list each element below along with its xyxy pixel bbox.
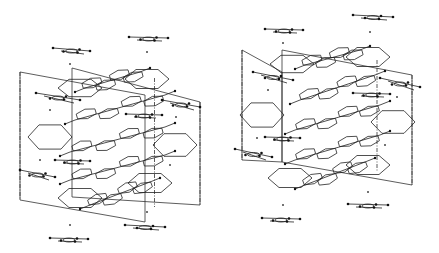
atom (174, 122, 176, 124)
right-stereo-view (234, 14, 422, 223)
substituent-bond (290, 100, 300, 104)
isolated-atom-dot (256, 137, 258, 139)
atom (74, 240, 77, 243)
atom (62, 50, 65, 53)
atom (378, 92, 381, 95)
atom (378, 18, 381, 21)
aromatic-ring (121, 96, 141, 106)
atom (364, 17, 367, 20)
atom (52, 47, 55, 50)
atom (49, 237, 52, 240)
atom (419, 86, 422, 89)
atom (42, 175, 45, 178)
atom (374, 157, 376, 159)
hexagonal-ring (371, 111, 415, 134)
atom (152, 225, 155, 228)
atom (35, 92, 38, 95)
atom (60, 239, 63, 242)
atom (63, 98, 66, 101)
substituent-bond (140, 68, 150, 72)
atom (78, 48, 81, 51)
aromatic-ring (356, 76, 376, 87)
atom (128, 36, 131, 39)
atom (155, 36, 158, 39)
atom (369, 45, 371, 47)
substituent-bond (65, 120, 75, 124)
edge-on-molecule-bond (53, 48, 90, 51)
atom (188, 102, 191, 105)
atom (149, 116, 152, 119)
substituent-bond (80, 205, 90, 209)
atom (89, 50, 92, 53)
hexagonal-ring (58, 79, 102, 96)
stereo-pair-figure (0, 0, 439, 253)
atom (352, 92, 355, 95)
atom (391, 83, 394, 86)
atom (299, 137, 302, 140)
atom (289, 103, 291, 105)
atom (373, 206, 376, 209)
molecule-backbone-bond (70, 155, 165, 180)
atom (261, 217, 264, 220)
atom (28, 174, 31, 177)
hexagonal-ring (240, 103, 284, 127)
isolated-atom-dot (146, 211, 148, 213)
atom (284, 133, 286, 135)
atom (375, 203, 378, 206)
atom (278, 78, 281, 81)
crystal-packing-diagram (0, 0, 439, 253)
atom (174, 90, 176, 92)
substituent-bond (380, 101, 390, 105)
atom (379, 77, 382, 80)
atom (139, 38, 142, 41)
atom (76, 237, 79, 240)
atom (273, 138, 276, 141)
atom (159, 177, 161, 179)
aromatic-ring (338, 106, 358, 116)
molecule-backbone-bond (295, 135, 380, 160)
atom (125, 113, 128, 116)
atom (153, 39, 156, 42)
hexagonal-ring (128, 174, 172, 193)
atom (244, 154, 247, 157)
atom (389, 130, 391, 132)
atom (289, 31, 292, 34)
substituent-bond (150, 178, 160, 182)
atom (252, 71, 255, 74)
isolated-atom-dot (49, 109, 51, 111)
atom (19, 169, 22, 172)
atom (199, 106, 202, 109)
atom (74, 91, 76, 93)
atom (299, 218, 302, 221)
molecule-backbone-bond (70, 127, 165, 152)
atom (286, 220, 289, 223)
atom (77, 162, 80, 165)
atom (89, 160, 92, 163)
atom (161, 114, 164, 117)
substituent-bond (75, 88, 85, 92)
isolated-atom-dot (169, 164, 171, 166)
isolated-atom-dot (282, 42, 284, 44)
isolated-atom-dot (69, 63, 71, 65)
hexagonal-ring (346, 156, 390, 175)
atom (362, 94, 365, 97)
isolated-atom-dot (384, 144, 386, 146)
atom (302, 29, 305, 32)
atom (264, 136, 267, 139)
aromatic-ring (144, 96, 164, 106)
atom (392, 16, 395, 19)
aromatic-ring (338, 136, 358, 146)
atom (287, 139, 290, 142)
atom (380, 15, 383, 18)
atom (271, 156, 274, 159)
isolated-atom-dot (369, 31, 371, 33)
substituent-bond (285, 130, 295, 134)
atom (135, 115, 138, 118)
atom (389, 93, 392, 96)
atom (59, 183, 61, 185)
substituent-bond (360, 46, 370, 50)
left-stereo-view (19, 36, 202, 243)
atom (174, 150, 176, 152)
aromatic-ring (123, 72, 143, 82)
atom (164, 226, 167, 229)
